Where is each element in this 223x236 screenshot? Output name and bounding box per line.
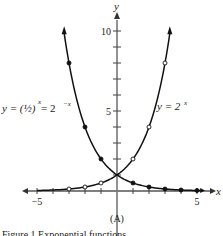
data-point xyxy=(195,189,199,193)
exponential-chart: −55510xyy = 2xy = (½)x = 2−x(A)Figure 1 … xyxy=(0,0,223,236)
y-axis-label: y xyxy=(113,0,119,12)
data-point xyxy=(67,187,71,191)
data-markers xyxy=(67,61,199,193)
curve-arrow-icon xyxy=(200,188,205,193)
figure-footer: Figure 1 Exponential functions xyxy=(2,229,126,236)
series-label-exponent: x xyxy=(183,99,188,107)
series-label-equals: = 2 xyxy=(41,102,55,114)
y-tick-label: 5 xyxy=(106,106,111,117)
data-point xyxy=(99,181,103,185)
series-label-half-pow-x: y = (½) xyxy=(1,102,36,115)
curve-2-pow-x xyxy=(37,33,170,190)
x-axis-left-arrow-icon xyxy=(22,188,28,194)
curve-arrow-icon xyxy=(62,26,67,34)
x-axis-label: x xyxy=(215,185,221,197)
data-point xyxy=(131,157,135,161)
y-axis-arrow-icon xyxy=(114,12,120,19)
data-point xyxy=(147,185,151,189)
data-point xyxy=(83,125,87,129)
data-point xyxy=(163,187,167,191)
curve-arrow-icon xyxy=(167,26,172,34)
figure-caption: (A) xyxy=(110,213,124,225)
axes xyxy=(22,12,216,236)
data-point xyxy=(163,61,167,65)
x-tick-label: 5 xyxy=(195,196,200,207)
x-tick-label: −5 xyxy=(32,196,43,207)
data-point xyxy=(147,125,151,129)
data-point xyxy=(67,61,71,65)
data-point xyxy=(131,181,135,185)
labels: −55510xyy = 2xy = (½)x = 2−x(A)Figure 1 … xyxy=(1,0,221,236)
series-label-exponent: −x xyxy=(63,100,72,108)
y-tick-label: 10 xyxy=(101,26,111,37)
curve-half-pow-x xyxy=(64,33,202,190)
data-point xyxy=(83,185,87,189)
series-label-2-pow-x: y = 2 xyxy=(156,100,181,112)
data-point xyxy=(99,157,103,161)
data-point xyxy=(179,188,183,192)
